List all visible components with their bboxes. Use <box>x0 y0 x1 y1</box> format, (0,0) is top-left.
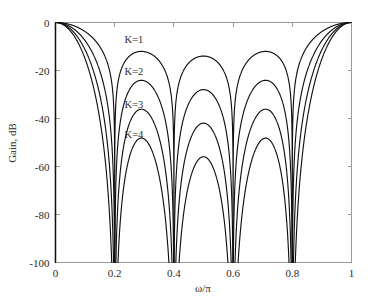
y-axis-title: Gain, dB <box>6 123 18 163</box>
x-tick-label: 0 <box>53 267 59 279</box>
y-tick-label: -80 <box>35 209 50 221</box>
y-tick-label: -20 <box>35 65 50 77</box>
x-tick-label: 0.8 <box>285 267 299 279</box>
y-tick-label: -40 <box>35 113 50 125</box>
series-label-k3: K=3 <box>125 99 144 110</box>
x-tick-label: 0.6 <box>226 267 240 279</box>
series-label-k4: K=4 <box>125 129 145 140</box>
y-tick-label: -100 <box>29 257 50 269</box>
x-axis-title: ω/π <box>195 282 211 294</box>
x-tick-label: 0.4 <box>167 267 181 279</box>
x-tick-label: 0.2 <box>108 267 122 279</box>
series-label-k1: K=1 <box>125 34 144 45</box>
gain-response-chart: 00.20.40.60.81 0-20-40-60-80-100 K=1K=2K… <box>0 0 373 306</box>
figure-container: 00.20.40.60.81 0-20-40-60-80-100 K=1K=2K… <box>0 0 373 306</box>
y-tick-label: 0 <box>44 17 50 29</box>
x-tick-label: 1 <box>349 267 355 279</box>
series-label-k2: K=2 <box>125 66 144 77</box>
y-tick-label: -60 <box>35 161 50 173</box>
